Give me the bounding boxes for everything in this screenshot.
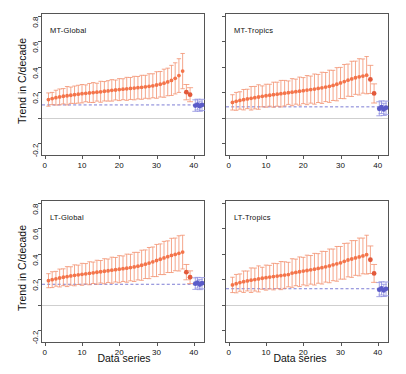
y-axis-tick xyxy=(222,228,225,229)
x-axis-tick xyxy=(266,343,267,346)
panel-lt-tropics: LT-Tropics010203040 xyxy=(0,0,406,374)
x-axis-tick xyxy=(378,343,379,346)
zero-reference-line xyxy=(226,305,388,306)
y-axis-tick xyxy=(222,305,225,306)
y-axis-tick xyxy=(222,203,225,204)
panel-label: LT-Tropics xyxy=(234,213,271,222)
y-axis-tick xyxy=(222,279,225,280)
y-axis-tick xyxy=(222,330,225,331)
figure-root: Trend in C/decade Trend in C/decade Data… xyxy=(0,0,406,374)
x-axis-tick-label: 10 xyxy=(262,348,271,357)
x-axis-tick-label: 0 xyxy=(226,348,230,357)
x-axis-tick xyxy=(303,343,304,346)
x-axis-tick xyxy=(341,343,342,346)
x-axis-tick xyxy=(229,343,230,346)
x-axis-tick-label: 20 xyxy=(299,348,308,357)
x-axis-tick-label: 30 xyxy=(336,348,345,357)
y-axis-tick xyxy=(222,254,225,255)
x-axis-tick-label: 40 xyxy=(373,348,382,357)
